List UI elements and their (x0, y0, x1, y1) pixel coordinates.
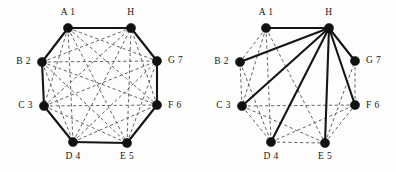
node-label-H: H (127, 7, 134, 17)
edge-E-D (73, 142, 127, 143)
node-label-C: C 3 (18, 100, 33, 110)
right-solid-edges (240, 28, 355, 143)
edge-C-E (44, 106, 127, 143)
edge-H-D (271, 28, 329, 142)
edge-E-G (127, 61, 157, 143)
node-B[interactable] (235, 57, 244, 66)
right-node-labels: A 1HG 7F 6E 5D 4C 3B 2 (214, 7, 381, 161)
edge-H-G (329, 28, 355, 61)
figure-root: A 1HG 7F 6E 5D 4C 3B 2 A 1HG 7F 6E 5D 4C… (0, 0, 396, 172)
edge-H-C (242, 28, 329, 106)
edge-D-E (271, 142, 325, 143)
node-label-H: H (325, 7, 332, 17)
node-label-E: E 5 (120, 151, 134, 161)
node-label-D: D 4 (65, 151, 80, 161)
node-H[interactable] (126, 23, 135, 32)
edge-D-H (73, 28, 131, 142)
node-F[interactable] (152, 100, 161, 109)
node-C[interactable] (39, 101, 48, 110)
node-label-A: A 1 (61, 7, 76, 17)
left-graph-svg: A 1HG 7F 6E 5D 4C 3B 2 (0, 0, 198, 172)
edge-A-D (68, 28, 73, 142)
edge-H-E (325, 28, 329, 143)
left-solid-edges (42, 28, 157, 143)
node-label-F: F 6 (366, 100, 380, 110)
edge-D-F (73, 105, 157, 142)
node-label-F: F 6 (168, 100, 182, 110)
edge-C-B (42, 62, 44, 106)
node-label-G: G 7 (366, 55, 381, 65)
edge-E-H (127, 28, 131, 143)
node-D[interactable] (266, 137, 275, 146)
edge-C-G (44, 61, 157, 106)
node-label-B: B 2 (214, 56, 229, 66)
edge-B-G (42, 61, 157, 62)
edge-D-C (44, 106, 73, 142)
edge-F-E (127, 105, 157, 143)
node-label-A: A 1 (259, 7, 274, 17)
node-label-C: C 3 (216, 100, 231, 110)
right-graph-svg: A 1HG 7F 6E 5D 4C 3B 2 (198, 0, 396, 172)
node-G[interactable] (350, 56, 359, 65)
right-dashed-edges (240, 28, 355, 143)
edge-B-C (240, 62, 242, 106)
node-G[interactable] (152, 56, 161, 65)
edge-C-D (242, 106, 271, 142)
node-A[interactable] (261, 23, 270, 32)
node-label-D: D 4 (263, 151, 278, 161)
edge-H-B (240, 28, 329, 62)
node-label-G: G 7 (168, 55, 183, 65)
graph-panel-right: A 1HG 7F 6E 5D 4C 3B 2 (198, 0, 396, 172)
edge-H-G (131, 28, 157, 61)
node-F[interactable] (350, 100, 359, 109)
edge-C-E (242, 106, 325, 143)
edge-E-F (325, 105, 355, 143)
edge-D-G (73, 61, 157, 142)
edge-E-G (325, 61, 355, 143)
node-C[interactable] (237, 101, 246, 110)
node-D[interactable] (68, 137, 77, 146)
graph-panel-left: A 1HG 7F 6E 5D 4C 3B 2 (0, 0, 198, 172)
edge-C-H (44, 28, 131, 106)
edge-A-E (68, 28, 127, 143)
node-E[interactable] (122, 138, 131, 147)
edge-A-E (266, 28, 325, 143)
edge-B-E (42, 62, 127, 143)
edge-C-F (242, 105, 355, 106)
node-H[interactable] (324, 23, 333, 32)
node-E[interactable] (320, 138, 329, 147)
node-B[interactable] (37, 57, 46, 66)
node-label-B: B 2 (16, 56, 31, 66)
edge-H-F (329, 28, 355, 105)
node-A[interactable] (63, 23, 72, 32)
node-label-E: E 5 (318, 151, 332, 161)
edge-C-F (44, 105, 157, 106)
edge-D-F (271, 105, 355, 142)
